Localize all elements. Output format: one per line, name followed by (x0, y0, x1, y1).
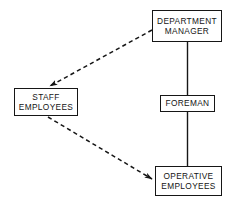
connector-staff-to-operative (48, 117, 152, 179)
node-operative-employees[interactable]: OPERATIVE EMPLOYEES (155, 166, 222, 196)
node-label-line: STAFF (32, 92, 59, 103)
org-chart-diagram: DEPARTMENT MANAGER STAFF EMPLOYEES FOREM… (0, 0, 237, 206)
node-label-line: DEPARTMENT (157, 16, 217, 27)
node-foreman[interactable]: FOREMAN (160, 95, 215, 112)
node-label-line: MANAGER (165, 26, 209, 37)
node-label-line: OPERATIVE (163, 171, 213, 182)
connector-manager-to-staff (50, 30, 152, 86)
node-department-manager[interactable]: DEPARTMENT MANAGER (152, 10, 222, 42)
node-label-line: EMPLOYEES (19, 102, 73, 113)
node-label-line: EMPLOYEES (161, 181, 215, 192)
node-staff-employees[interactable]: STAFF EMPLOYEES (14, 88, 78, 116)
node-label-line: FOREMAN (166, 98, 210, 109)
